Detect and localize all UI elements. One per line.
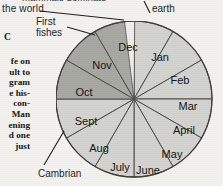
leader-line-first-fishes	[67, 27, 95, 35]
callout-label-first-fishes-line1: First	[36, 16, 55, 27]
scanned-page: mammals dominate the world. C fe on ult …	[0, 0, 223, 186]
callout-label-earth: earth	[152, 3, 175, 14]
callout-label-first-fishes-line2: fishes	[36, 27, 62, 38]
callout-label-cambrian: Cambrian	[38, 168, 81, 179]
leader-line-earth	[144, 1, 150, 13]
leader-line-cambrian	[44, 131, 64, 165]
callout-leader-lines	[0, 0, 223, 186]
